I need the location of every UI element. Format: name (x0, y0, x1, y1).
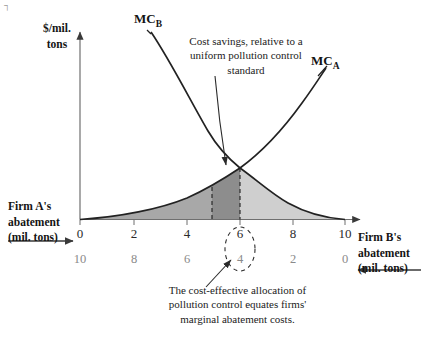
x-tick-secondary-label-8: 8 (128, 252, 140, 267)
x-tick-label-6: 6 (234, 226, 246, 242)
cost-effective-annotation: The cost-effective allocation ofpollutio… (135, 283, 340, 326)
cost-effective-line-1: The cost-effective allocation of (169, 284, 307, 296)
cost-savings-line-1: Cost savings, relative to a (189, 35, 302, 47)
mc-b-leader (147, 30, 151, 34)
x-tick-secondary-label-4: 4 (234, 252, 246, 267)
mc-b-label: MCB (134, 11, 162, 30)
cost-savings-pointer (215, 76, 226, 165)
firm-b-axis-title: Firm B'sabatement(mil. tons) (358, 230, 424, 277)
firm-a-axis-title: Firm A'sabatement(mil. tons) (8, 199, 78, 246)
firm-a-line-2: abatement (8, 216, 60, 228)
x-tick-label-0: 0 (74, 226, 86, 242)
x-tick-secondary-label-6: 6 (181, 252, 193, 267)
corner-mark: ┐ (4, 0, 10, 11)
x-tick-label-2: 2 (128, 226, 140, 242)
firm-b-line-2: abatement (358, 247, 410, 259)
x-tick-secondary-label-0: 0 (339, 252, 351, 267)
firm-b-line-3: (mil. tons) (358, 262, 408, 274)
mc-a-label: MCA (311, 53, 340, 72)
x-axis-ticks (80, 220, 345, 226)
mc-b-label-subscript: B (156, 19, 162, 29)
firm-b-line-1: Firm B's (358, 231, 401, 243)
firm-a-line-3: (mil. tons) (8, 231, 58, 243)
y-axis-title-line1: $/mil. (43, 22, 71, 34)
cost-savings-line-2: uniform pollution control (190, 49, 302, 61)
firm-a-line-1: Firm A's (8, 200, 51, 212)
mc-a-label-text: MC (311, 53, 333, 68)
y-axis-title-line2: tons (47, 38, 67, 50)
figure-container: ┐ $/mil.tons MCB MCA Cost savings, relat… (0, 0, 426, 340)
x-tick-label-10: 10 (337, 226, 353, 242)
cost-effective-line-3: marginal abatement costs. (180, 313, 294, 325)
cost-savings-line-3: standard (227, 64, 264, 76)
cost-savings-annotation: Cost savings, relative to auniform pollu… (180, 34, 312, 77)
x-tick-secondary-label-2: 2 (287, 252, 299, 267)
x-tick-secondary-label-10: 10 (72, 252, 88, 267)
x-tick-label-4: 4 (181, 226, 193, 242)
shaded-region-right (240, 168, 345, 220)
cost-effective-line-2: pollution control equates firms' (169, 298, 306, 310)
mc-b-label-text: MC (134, 11, 156, 26)
y-axis-title: $/mil.tons (36, 21, 78, 52)
mc-a-label-subscript: A (333, 61, 340, 71)
x-tick-label-8: 8 (287, 226, 299, 242)
